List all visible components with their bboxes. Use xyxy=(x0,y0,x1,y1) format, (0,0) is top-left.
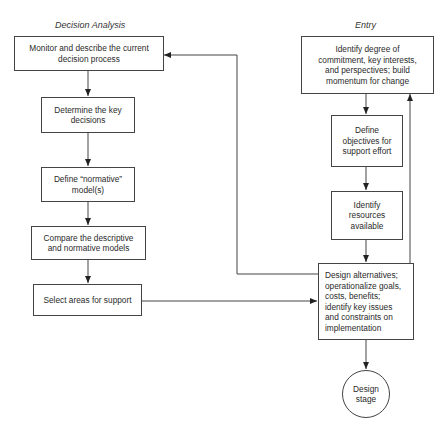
node-compare-models: Compare the descriptive and normative mo… xyxy=(31,226,146,260)
node-define-normative-models: Define “normative” model(s) xyxy=(41,167,135,202)
heading-entry: Entry xyxy=(355,20,376,30)
heading-decision-analysis: Decision Analysis xyxy=(55,20,125,30)
node-design-alternatives: Design alternatives; operationalize goal… xyxy=(318,263,414,340)
node-identify-resources: Identify resources available xyxy=(331,191,403,240)
node-select-areas: Select areas for support xyxy=(33,284,142,316)
node-determine-key-decisions: Determine the key decisions xyxy=(41,97,135,133)
node-design-stage: Design stage xyxy=(342,370,390,418)
node-identify-degree-commitment: Identify degree of commitment, key inter… xyxy=(301,36,434,94)
node-monitor-decision-process: Monitor and describe the current decisio… xyxy=(14,36,164,71)
edge-design-monitor-feedback xyxy=(164,55,318,274)
node-define-objectives: Define objectives for support effort xyxy=(331,115,403,167)
